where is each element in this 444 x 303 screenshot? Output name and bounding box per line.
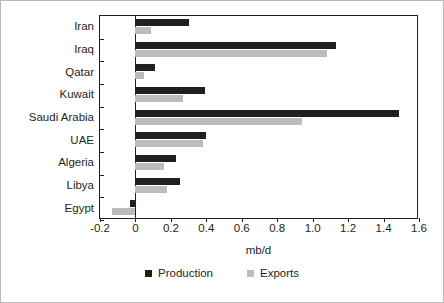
bar-production bbox=[135, 178, 179, 185]
legend-item-production[interactable]: Production bbox=[145, 267, 213, 279]
x-axis-tick-label: -0.2 bbox=[90, 223, 110, 235]
category-row: Algeria bbox=[100, 152, 417, 175]
category-label: Iran bbox=[74, 21, 94, 33]
bar-production bbox=[135, 155, 176, 162]
category-label: Libya bbox=[67, 180, 95, 192]
category-label: Algeria bbox=[58, 157, 94, 169]
x-axis-tick-label: 1.2 bbox=[340, 223, 356, 235]
bar-production bbox=[135, 42, 335, 49]
legend-label: Exports bbox=[260, 267, 299, 279]
bar-exports bbox=[135, 186, 167, 193]
category-row: Qatar bbox=[100, 61, 417, 84]
bar-exports bbox=[135, 27, 151, 34]
bar-exports bbox=[112, 208, 135, 215]
bar-production bbox=[135, 87, 204, 94]
legend-item-exports[interactable]: Exports bbox=[247, 267, 299, 279]
plot-area: IranIraqQatarKuwaitSaudi ArabiaUAEAlgeri… bbox=[100, 16, 417, 218]
category-label: Saudi Arabia bbox=[29, 112, 94, 124]
chart-legend: ProductionExports bbox=[1, 267, 443, 279]
x-axis-tick-label: 1.0 bbox=[305, 223, 321, 235]
chart-figure: IranIraqQatarKuwaitSaudi ArabiaUAEAlgeri… bbox=[0, 0, 444, 303]
category-row: Kuwait bbox=[100, 84, 417, 107]
bar-production bbox=[130, 200, 135, 207]
category-row: Libya bbox=[100, 175, 417, 198]
x-axis-title: mb/d bbox=[99, 244, 418, 256]
category-row: Saudi Arabia bbox=[100, 107, 417, 130]
legend-swatch-icon bbox=[145, 270, 152, 277]
x-axis-tick-label: 0 bbox=[132, 223, 138, 235]
x-axis-ticks: -0.200.20.40.60.81.01.21.41.6 bbox=[100, 218, 417, 223]
category-label: Egypt bbox=[65, 203, 94, 215]
category-row: Iran bbox=[100, 16, 417, 39]
bar-exports bbox=[135, 140, 202, 147]
category-label: Qatar bbox=[65, 67, 94, 79]
x-axis-tick-label: 0.6 bbox=[234, 223, 250, 235]
category-row: Egypt bbox=[100, 197, 417, 220]
legend-label: Production bbox=[158, 267, 213, 279]
plot-frame: IranIraqQatarKuwaitSaudi ArabiaUAEAlgeri… bbox=[99, 15, 418, 219]
category-row: Iraq bbox=[100, 39, 417, 62]
bar-production bbox=[135, 132, 206, 139]
category-label: Iraq bbox=[74, 44, 94, 56]
bar-exports bbox=[135, 95, 183, 102]
category-row: UAE bbox=[100, 129, 417, 152]
x-axis-tick-label: 0.2 bbox=[163, 223, 179, 235]
x-axis-tick-label: 0.4 bbox=[198, 223, 214, 235]
legend-swatch-icon bbox=[247, 270, 254, 277]
bar-exports bbox=[135, 163, 163, 170]
x-axis-tick-label: 1.4 bbox=[376, 223, 392, 235]
bar-exports bbox=[135, 72, 144, 79]
bar-production bbox=[135, 64, 154, 71]
bar-exports bbox=[135, 50, 326, 57]
x-axis-tick-label: 0.8 bbox=[269, 223, 285, 235]
bar-exports bbox=[135, 118, 302, 125]
category-label: Kuwait bbox=[59, 89, 94, 101]
category-label: UAE bbox=[70, 135, 94, 147]
bar-production bbox=[135, 110, 399, 117]
bar-production bbox=[135, 19, 188, 26]
x-axis-tick-label: 1.6 bbox=[411, 223, 427, 235]
